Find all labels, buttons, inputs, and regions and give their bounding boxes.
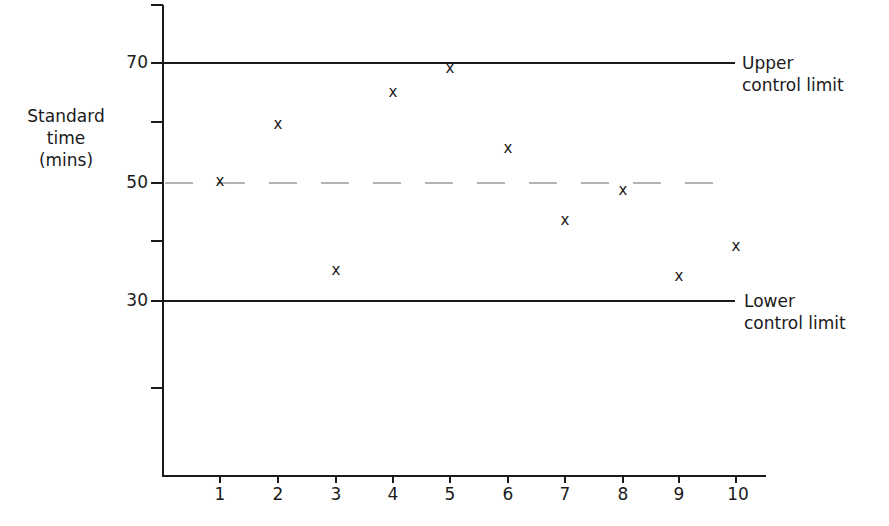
y-tick-label-70: 70 (118, 52, 148, 72)
lower-label-line-1: Lower (744, 290, 846, 312)
x-tick-label: 8 (608, 484, 638, 504)
data-point-marker: x (729, 239, 743, 253)
upper-control-limit-label: Upper control limit (742, 52, 844, 96)
y-axis-label-line-2: time (10, 127, 122, 149)
data-point-marker: x (616, 183, 630, 197)
data-point-marker: x (672, 269, 686, 283)
x-tick-label: 4 (378, 484, 408, 504)
data-point-marker: x (443, 61, 457, 75)
x-tick-label: 2 (263, 484, 293, 504)
x-tick-label: 5 (435, 484, 465, 504)
data-point-marker: x (386, 85, 400, 99)
y-axis-label-line-1: Standard (10, 105, 122, 127)
x-tick-label: 6 (493, 484, 523, 504)
upper-label-line-1: Upper (742, 52, 844, 74)
data-point-marker: x (271, 117, 285, 131)
data-point-marker: x (501, 141, 515, 155)
x-tick-label: 1 (205, 484, 235, 504)
x-tick-label: 3 (321, 484, 351, 504)
x-tick-label: 9 (664, 484, 694, 504)
y-tick-label-50: 50 (118, 172, 148, 192)
data-point-marker: x (329, 263, 343, 277)
y-axis-label-line-3: (mins) (10, 149, 122, 171)
lower-label-line-2: control limit (744, 312, 846, 334)
y-tick-label-30: 30 (118, 290, 148, 310)
lower-control-limit-label: Lower control limit (744, 290, 846, 334)
data-point-marker: x (558, 213, 572, 227)
data-point-marker: x (213, 174, 227, 188)
y-axis-label: Standard time (mins) (10, 105, 122, 171)
x-tick-label: 7 (550, 484, 580, 504)
x-ticks (220, 476, 736, 483)
upper-label-line-2: control limit (742, 74, 844, 96)
x-tick-label: 10 (723, 484, 753, 504)
y-ticks (151, 5, 163, 388)
